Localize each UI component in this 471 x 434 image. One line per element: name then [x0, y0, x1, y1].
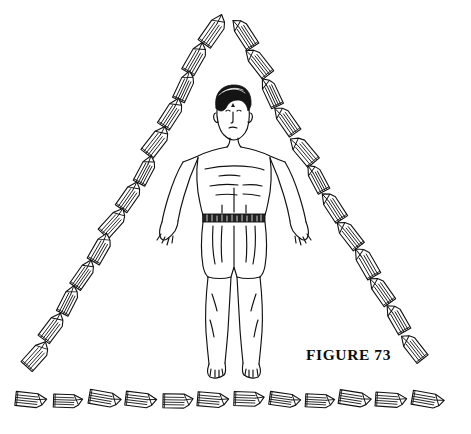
- figure-canvas: FIGURE 73: [0, 0, 471, 434]
- figure-caption: FIGURE 73: [306, 346, 391, 364]
- illustration-svg: [0, 0, 471, 434]
